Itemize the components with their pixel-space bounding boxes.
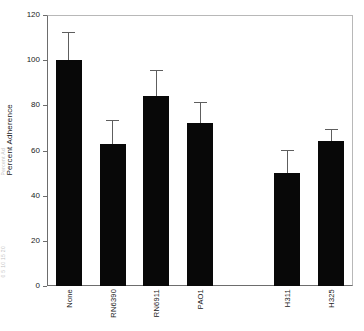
y-tick-label: 100 <box>27 55 40 64</box>
error-bar-cap <box>62 32 75 33</box>
x-axis-label-H311: H311 <box>283 289 292 307</box>
bar-group-RN6390 <box>100 15 126 286</box>
bars-layer <box>47 15 353 286</box>
error-bar-line <box>68 33 69 60</box>
bar-group-PAO1 <box>187 15 213 286</box>
error-bar-line <box>331 130 332 141</box>
y-tick-label: 60 <box>31 146 40 155</box>
x-axis-labels: NoneRN6390RN6911PAO1H311H325 <box>47 289 353 331</box>
bar-group-RN6911 <box>143 15 169 286</box>
error-bar-line <box>156 71 157 96</box>
bar <box>56 60 82 286</box>
bar <box>274 173 300 286</box>
bar <box>187 123 213 286</box>
y-tick-label: 120 <box>27 10 40 19</box>
error-bar-cap <box>325 129 338 130</box>
y-tick-label: 80 <box>31 100 40 109</box>
x-axis-label-RN6911: RN6911 <box>152 289 161 317</box>
error-bar-cap <box>194 102 207 103</box>
bar <box>100 144 126 286</box>
x-axis-label-PAO1: PAO1 <box>196 289 205 309</box>
error-bar-cap <box>106 120 119 121</box>
y-tick-label: 40 <box>31 191 40 200</box>
scan-artifact-bottom: 0 5 10 15 20 <box>0 246 14 277</box>
y-tick-label: 20 <box>31 236 40 245</box>
y-axis-title: Percent Adherence <box>5 104 14 175</box>
error-bar-cap <box>150 70 163 71</box>
y-tick-mark <box>43 286 47 287</box>
error-bar-line <box>287 151 288 174</box>
bar <box>143 96 169 286</box>
error-bar-cap <box>281 150 294 151</box>
x-axis-label-None: None <box>65 289 74 308</box>
bar-group-None <box>56 15 82 286</box>
x-axis-label-RN6390: RN6390 <box>109 289 118 318</box>
error-bar-line <box>200 103 201 123</box>
error-bar-line <box>112 121 113 144</box>
bar-group-H311 <box>274 15 300 286</box>
bar <box>318 141 344 286</box>
x-axis-label-H325: H325 <box>327 289 336 308</box>
y-tick-label: 0 <box>36 281 40 290</box>
bar-group-H325 <box>318 15 344 286</box>
bar-chart-figure: Percent Ad 0 5 10 15 20 Percent Adherenc… <box>0 0 364 331</box>
